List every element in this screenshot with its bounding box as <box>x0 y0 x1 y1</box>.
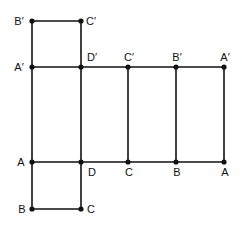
vertex-label: B′ <box>172 51 181 63</box>
vertex-dot-icon <box>173 159 178 164</box>
vertex-dot-icon <box>29 206 34 211</box>
vertex-label: A <box>221 166 229 178</box>
vertex-dot-icon <box>78 18 83 23</box>
vertex-dot-icon <box>78 64 83 69</box>
labels-group: B′C′A′D′C′B′A′ADCBABC <box>14 15 229 215</box>
vertex-dot-icon <box>78 206 83 211</box>
vertex-label: C′ <box>86 15 96 27</box>
vertex-dot-icon <box>29 159 34 164</box>
vertex-label: B′ <box>14 15 23 27</box>
edges-group <box>32 21 224 209</box>
vertex-label: A′ <box>14 61 23 73</box>
cuboid-net-diagram: B′C′A′D′C′B′A′ADCBABC <box>0 0 242 225</box>
vertex-label: B <box>18 203 25 215</box>
vertex-dot-icon <box>221 159 226 164</box>
vertex-label: C <box>125 166 133 178</box>
vertex-label: C′ <box>124 51 134 63</box>
vertex-label: C <box>87 203 95 215</box>
vertex-dot-icon <box>125 159 130 164</box>
vertex-label: A′ <box>220 51 229 63</box>
vertex-label: D′ <box>87 51 97 63</box>
vertex-dot-icon <box>29 18 34 23</box>
diagram-svg: B′C′A′D′C′B′A′ADCBABC <box>0 0 242 225</box>
vertex-label: B <box>173 166 180 178</box>
vertex-dot-icon <box>221 64 226 69</box>
vertex-label: D <box>88 166 96 178</box>
vertex-dot-icon <box>173 64 178 69</box>
vertex-label: A <box>17 156 25 168</box>
vertex-dot-icon <box>29 64 34 69</box>
vertex-dot-icon <box>78 159 83 164</box>
vertex-dot-icon <box>125 64 130 69</box>
